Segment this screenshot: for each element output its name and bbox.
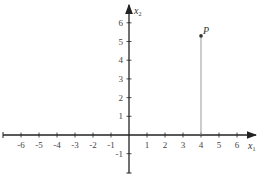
y-tick-label: 2 bbox=[119, 93, 124, 103]
y-axis-label: x2 bbox=[133, 5, 141, 17]
x-tick-label: -1 bbox=[107, 140, 115, 150]
x-tick-label: 1 bbox=[145, 140, 150, 150]
x-tick-label: -2 bbox=[89, 140, 97, 150]
y-axis: -1123456x2 bbox=[116, 5, 142, 173]
x-tick-label: -5 bbox=[35, 140, 43, 150]
point-p: P bbox=[199, 25, 209, 135]
x-tick-label: 3 bbox=[181, 140, 186, 150]
y-tick-label: 4 bbox=[119, 55, 124, 65]
x-tick-label: -3 bbox=[71, 140, 79, 150]
y-tick-label: 3 bbox=[119, 74, 124, 84]
x-tick-label: -6 bbox=[17, 140, 25, 150]
y-tick-label: 6 bbox=[119, 18, 124, 28]
coordinate-plane: -6-5-4-3-2-1123456x1 -1123456x2 P bbox=[0, 0, 260, 179]
x-tick-label: 2 bbox=[163, 140, 168, 150]
x-tick-label: -4 bbox=[53, 140, 61, 150]
x-tick-label: 6 bbox=[235, 140, 240, 150]
y-tick-label: 1 bbox=[119, 111, 124, 121]
x-axis-label: x1 bbox=[247, 140, 255, 152]
y-tick-label: 5 bbox=[119, 37, 124, 47]
x-tick-label: 5 bbox=[217, 140, 222, 150]
x-tick-label: 4 bbox=[199, 140, 204, 150]
y-tick-label: -1 bbox=[116, 149, 124, 159]
point-label: P bbox=[202, 25, 209, 36]
